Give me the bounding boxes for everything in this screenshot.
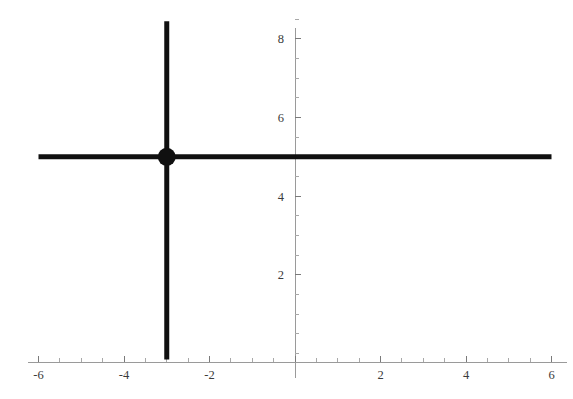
x-tick-label--2: -2 — [204, 368, 214, 382]
x-tick-label--4: -4 — [119, 368, 130, 382]
chart-plot-area: -6-4-22462468 — [0, 0, 573, 399]
x-tick-label--6: -6 — [33, 368, 43, 382]
x-tick-label-2: 2 — [377, 368, 383, 382]
y-tick-label-8: 8 — [278, 32, 284, 46]
x-tick-label-4: 4 — [463, 368, 470, 382]
y-tick-label-6: 6 — [278, 111, 284, 125]
y-tick-label-2: 2 — [278, 268, 284, 282]
x-tick-label-6: 6 — [548, 368, 554, 382]
intersection-point-marker — [158, 148, 176, 166]
y-tick-label-4: 4 — [278, 190, 285, 204]
chart-canvas: -6-4-22462468 — [0, 0, 573, 399]
